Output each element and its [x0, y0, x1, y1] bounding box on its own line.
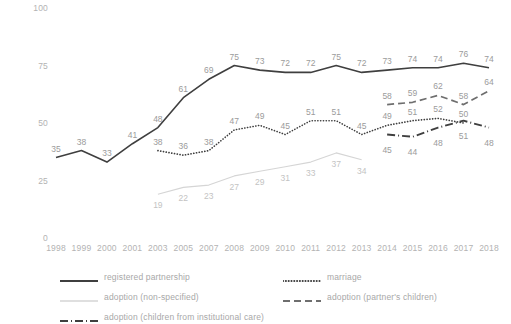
data-label: 49 — [250, 111, 270, 121]
legend-item-4[interactable]: adoption (children from institutional ca… — [60, 312, 264, 322]
data-label: 34 — [352, 166, 372, 176]
data-label: 51 — [403, 107, 423, 117]
data-label: 33 — [97, 148, 117, 158]
data-label: 74 — [428, 54, 448, 64]
data-label: 38 — [71, 137, 91, 147]
data-label: 33 — [301, 168, 321, 178]
legend-item-0[interactable]: registered partnership — [60, 272, 190, 282]
data-label: 75 — [326, 52, 346, 62]
data-label: 72 — [275, 58, 295, 68]
data-label: 64 — [479, 77, 499, 87]
data-label: 19 — [148, 200, 168, 210]
data-label: 58 — [377, 91, 397, 101]
legend-label: adoption (non-specified) — [104, 292, 199, 302]
legend-item-2[interactable]: adoption (non-specified) — [60, 292, 199, 302]
data-label: 62 — [428, 81, 448, 91]
data-label: 23 — [199, 191, 219, 201]
data-label: 59 — [403, 88, 423, 98]
data-label: 41 — [122, 130, 142, 140]
data-label: 52 — [428, 104, 448, 114]
data-label: 38 — [199, 137, 219, 147]
data-label: 27 — [224, 182, 244, 192]
data-label: 74 — [479, 54, 499, 64]
data-label: 44 — [403, 147, 423, 157]
data-label: 35 — [46, 144, 66, 154]
data-label: 51 — [326, 107, 346, 117]
light-solid-line-marker — [60, 292, 98, 302]
legend-label: registered partnership — [104, 272, 190, 282]
data-label: 69 — [199, 65, 219, 75]
data-label: 74 — [403, 54, 423, 64]
data-label: 48 — [428, 138, 448, 148]
data-label: 29 — [250, 177, 270, 187]
dash-dot-line-marker — [60, 312, 98, 322]
data-label: 48 — [479, 138, 499, 148]
legend-item-3[interactable]: adoption (partner's children) — [283, 292, 437, 302]
data-label: 49 — [377, 111, 397, 121]
legend-label: adoption (partner's children) — [327, 292, 437, 302]
chart-legend: registered partnershipmarriageadoption (… — [0, 268, 511, 324]
legend-label: adoption (children from institutional ca… — [104, 312, 264, 322]
data-label: 38 — [148, 137, 168, 147]
dotted-line-marker — [283, 272, 321, 282]
data-label: 48 — [148, 114, 168, 124]
data-label: 45 — [352, 121, 372, 131]
data-label: 31 — [275, 173, 295, 183]
data-label: 45 — [275, 121, 295, 131]
data-label: 73 — [250, 56, 270, 66]
data-label: 72 — [352, 58, 372, 68]
data-label: 51 — [454, 131, 474, 141]
data-label: 36 — [173, 141, 193, 151]
legend-label: marriage — [327, 272, 362, 282]
series-line-0 — [56, 63, 489, 162]
line-chart: 0255075100 19981999200020012003200520072… — [0, 0, 511, 324]
legend-item-1[interactable]: marriage — [283, 272, 362, 282]
data-label: 72 — [301, 58, 321, 68]
data-label: 22 — [173, 193, 193, 203]
data-label: 73 — [377, 56, 397, 66]
data-label: 51 — [301, 107, 321, 117]
data-label: 75 — [224, 52, 244, 62]
data-label: 61 — [173, 84, 193, 94]
data-label: 50 — [454, 109, 474, 119]
data-label: 58 — [454, 91, 474, 101]
solid-line-marker — [60, 272, 98, 282]
data-label: 45 — [377, 145, 397, 155]
data-label: 47 — [224, 116, 244, 126]
data-label: 76 — [454, 49, 474, 59]
dashed-line-marker — [283, 292, 321, 302]
data-label: 37 — [326, 159, 346, 169]
